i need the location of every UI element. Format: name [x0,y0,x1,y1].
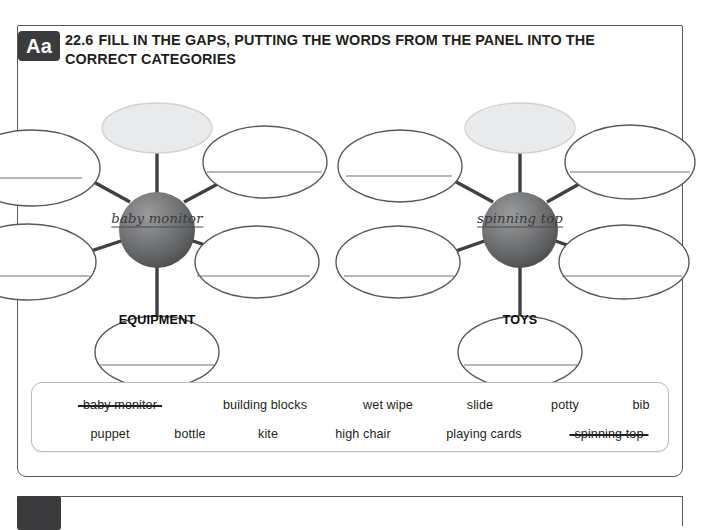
mindmap-equipment-graphic [0,90,342,380]
word-bank-item-used[interactable]: spinning top [574,427,643,441]
word-bank-item[interactable]: puppet [90,427,129,441]
next-exercise-badge [17,496,61,530]
word-bank-item[interactable]: bib [632,398,649,412]
word-bank-item-used[interactable]: baby monitor [83,398,157,412]
word-bank-item[interactable]: high chair [335,427,391,441]
mindmap-filled-bubble [102,103,212,153]
exercise-title: 22.6FILL IN THE GAPS, PUTTING THE WORDS … [65,31,665,69]
word-bank-item[interactable]: playing cards [446,427,522,441]
exercise-type-badge: Aa [18,31,60,61]
mindmap-toys-graphic [352,90,702,380]
next-exercise-panel [17,496,683,526]
word-bank-item[interactable]: kite [258,427,278,441]
mindmap-center-sphere [482,192,558,268]
exercise-instruction: FILL IN THE GAPS, PUTTING THE WORDS FROM… [65,32,595,67]
mindmap-equipment: baby monitor EQUIPMENT [0,90,342,380]
mindmap-filled-bubble [465,103,575,153]
mindmap-toys: spinning top TOYS [352,90,702,380]
exercise-number: 22.6 [65,32,93,48]
word-bank-item[interactable]: bottle [174,427,205,441]
word-bank-row: puppetbottlekitehigh chairplaying cardss… [32,422,668,446]
word-bank-panel: baby monitorbuilding blockswet wipeslide… [31,382,669,452]
word-bank-item[interactable]: building blocks [223,398,307,412]
mindmap-center-sphere [119,192,195,268]
word-bank-item[interactable]: slide [467,398,493,412]
word-bank-row: baby monitorbuilding blockswet wipeslide… [32,393,668,417]
word-bank-item[interactable]: potty [551,398,579,412]
word-bank-item[interactable]: wet wipe [363,398,413,412]
